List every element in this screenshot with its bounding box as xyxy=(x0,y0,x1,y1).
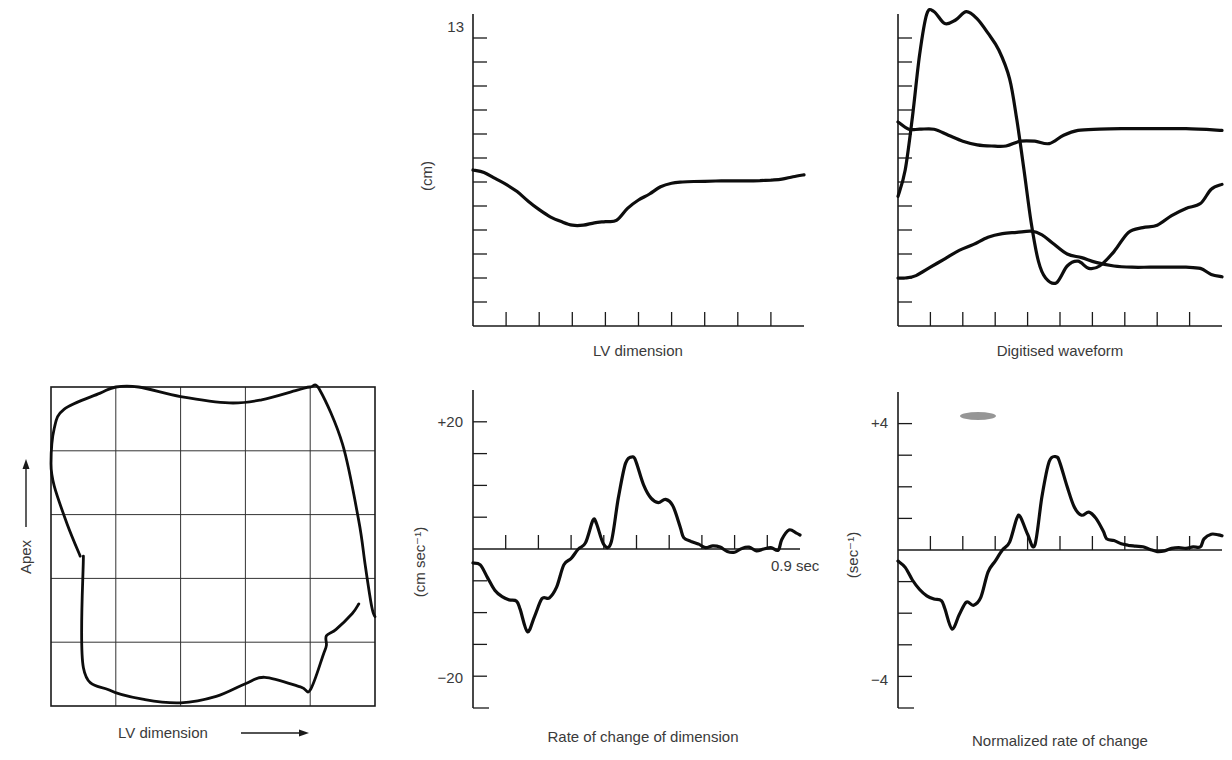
loop-panel: LV dimension Apex xyxy=(17,385,375,741)
loop-grid xyxy=(51,387,375,706)
rate-of-change-panel: +20 −20 (cm sec⁻¹) 0.9 sec Rate of chang… xyxy=(411,390,820,745)
norm-ylabel: (sec⁻¹) xyxy=(844,532,861,578)
rate-of-change-title: Rate of change of dimension xyxy=(548,728,739,745)
digitised-waveform-title: Digitised waveform xyxy=(997,342,1124,359)
loop-ylabel: Apex xyxy=(17,539,34,574)
print-smudge xyxy=(960,412,996,420)
rate-ytick-plus20: +20 xyxy=(438,413,463,430)
lv-dimension-title: LV dimension xyxy=(593,342,683,359)
lv-dimension-axes xyxy=(473,14,804,326)
loop-xlabel: LV dimension xyxy=(118,724,208,741)
loop-series-1 xyxy=(51,385,375,617)
normalized-rate-panel: +4 −4 (sec⁻¹) Normalized rate of change xyxy=(844,392,1222,749)
figure: LV dimension Apex 13 (cm) LV dimension D… xyxy=(0,0,1232,760)
digitised-waveform-series-3 xyxy=(898,231,1222,278)
loop-curves xyxy=(51,385,375,703)
norm-ytick-plus4: +4 xyxy=(871,414,888,431)
digitised-waveform-series-2 xyxy=(898,122,1222,146)
lv-dimension-series-1 xyxy=(473,170,804,226)
lv-dimension-panel: 13 (cm) LV dimension xyxy=(418,14,804,359)
lv-dimension-ylabel: (cm) xyxy=(418,161,435,191)
digitised-waveform-series-1 xyxy=(898,9,1222,283)
norm-ytick-minus4: −4 xyxy=(871,671,888,688)
rate-ylabel: (cm sec⁻¹) xyxy=(411,527,428,598)
x-arrow-icon xyxy=(241,730,309,737)
loop-frame xyxy=(51,387,375,706)
normalized-rate-axes xyxy=(898,392,1222,708)
rate-ytick-minus20: −20 xyxy=(438,669,463,686)
normalized-rate-title: Normalized rate of change xyxy=(972,732,1148,749)
lv-dimension-ytick-13: 13 xyxy=(447,18,464,35)
lv-dimension-curves xyxy=(473,170,804,226)
digitised-waveform-panel: Digitised waveform xyxy=(898,9,1222,359)
y-arrow-icon xyxy=(23,459,30,527)
rate-xend-label: 0.9 sec xyxy=(771,557,820,574)
digitised-waveform-curves xyxy=(898,9,1222,283)
